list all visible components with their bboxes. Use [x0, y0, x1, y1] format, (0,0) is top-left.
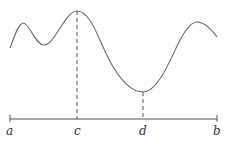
function-curve	[10, 11, 217, 92]
label-a: a	[6, 124, 13, 138]
extreme-value-diagram: a c d b	[0, 0, 225, 141]
label-c: c	[74, 124, 81, 138]
label-d: d	[139, 124, 147, 138]
label-b: b	[213, 124, 221, 138]
